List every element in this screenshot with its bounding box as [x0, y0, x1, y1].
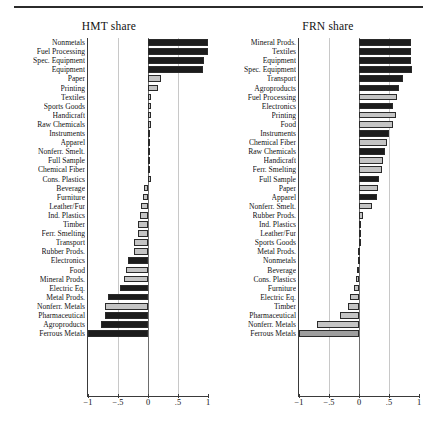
bar-row: [88, 184, 208, 193]
category-label: Handicraft: [53, 111, 85, 120]
category-label: Leather/Fur: [260, 229, 296, 238]
bar: [143, 194, 148, 201]
bar: [148, 39, 208, 46]
panel-title-frn: FRN share: [219, 20, 437, 32]
bar-row: [88, 229, 208, 238]
bar: [359, 75, 403, 82]
bar-row: [88, 38, 208, 47]
category-label: Timber: [63, 220, 85, 229]
bar: [108, 294, 148, 301]
bar-row: [299, 175, 419, 184]
bar-row: [299, 320, 419, 329]
category-label: Beverage: [56, 184, 85, 193]
category-label: Instruments: [49, 129, 85, 138]
category-label: Furniture: [57, 193, 85, 202]
x-axis-ticks-frn: −1−.50.51: [299, 398, 419, 412]
bar: [148, 48, 208, 55]
category-label: Raw Chemicals: [37, 120, 85, 129]
bar: [359, 166, 382, 173]
bar: [120, 285, 148, 292]
bar-row: [299, 138, 419, 147]
x-tick-mark: [389, 394, 390, 398]
bar-row: [299, 293, 419, 302]
category-label: Transport: [267, 74, 296, 83]
bar-row: [299, 220, 419, 229]
category-label: Apparel: [61, 138, 85, 147]
bar-row: [88, 193, 208, 202]
bar: [340, 312, 359, 319]
category-label: Food: [280, 120, 296, 129]
category-label: Textiles: [61, 93, 85, 102]
bar: [141, 203, 148, 210]
bar-row: [88, 211, 208, 220]
bar-row: [88, 84, 208, 93]
category-label: Spec. Equipment: [33, 56, 85, 65]
bar: [134, 239, 148, 246]
bars-container-frn: [299, 38, 419, 396]
category-label: Fuel Processing: [248, 93, 296, 102]
x-tick-mark: [88, 394, 89, 398]
x-tick-mark: [118, 394, 119, 398]
category-label: Printing: [272, 111, 296, 120]
bar-row: [299, 165, 419, 174]
bar: [359, 230, 361, 237]
bar: [359, 157, 383, 164]
category-label: Chemical Fiber: [38, 165, 85, 174]
bar-row: [299, 129, 419, 138]
bar-row: [88, 93, 208, 102]
bar-row: [88, 247, 208, 256]
bar-row: [88, 74, 208, 83]
category-label: Pharmaceutical: [249, 311, 296, 320]
bar: [138, 230, 148, 237]
category-label: Equipment: [52, 65, 85, 74]
category-label: Agroproducts: [254, 84, 296, 93]
category-label: Agroproducts: [43, 320, 85, 329]
plot-area-hmt: [88, 38, 208, 396]
bar: [148, 57, 204, 64]
bar: [105, 303, 148, 310]
bar: [148, 176, 151, 183]
x-tick-mark: [359, 394, 360, 398]
bar: [148, 157, 150, 164]
bar: [359, 130, 389, 137]
category-label: Ind. Plastics: [259, 220, 296, 229]
bar: [359, 148, 385, 155]
bar-row: [88, 147, 208, 156]
bar: [140, 212, 148, 219]
bar: [148, 166, 150, 173]
x-tick-label: −1: [295, 398, 304, 407]
bar-row: [299, 74, 419, 83]
bar-row: [88, 311, 208, 320]
bar: [148, 130, 150, 137]
category-label: Cons. Plastics: [42, 175, 85, 184]
x-tick-mark: [148, 394, 149, 398]
bar-row: [299, 84, 419, 93]
category-label: Full Sample: [259, 175, 296, 184]
bar: [359, 212, 363, 219]
plot-area-frn: [299, 38, 419, 396]
bar: [88, 330, 148, 337]
bar: [359, 66, 412, 73]
x-tick-label: .5: [386, 398, 392, 407]
category-label: Chemical Fiber: [249, 138, 296, 147]
bar-row: [299, 202, 419, 211]
bar-row: [299, 156, 419, 165]
category-label: Nonferr. Metals: [248, 320, 296, 329]
category-label: Sports Goods: [44, 102, 85, 111]
category-label: Leather/Fur: [49, 202, 85, 211]
bar: [359, 239, 361, 246]
bar-row: [88, 138, 208, 147]
category-label: Nonferr. Smelt.: [249, 202, 296, 211]
bar-row: [299, 302, 419, 311]
bar-row: [88, 56, 208, 65]
category-label: Mineral Prods.: [40, 275, 85, 284]
bar: [148, 66, 203, 73]
category-label: Fuel Processing: [37, 47, 85, 56]
bar-row: [299, 38, 419, 47]
bar-row: [299, 275, 419, 284]
bar: [148, 121, 151, 128]
bar-row: [299, 56, 419, 65]
category-label: Metal Prods.: [46, 293, 85, 302]
bar-row: [88, 156, 208, 165]
bar: [359, 139, 387, 146]
